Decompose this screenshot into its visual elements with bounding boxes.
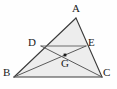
vertex-label-e: E [88,37,95,48]
vertex-label-a: A [72,3,80,14]
vertex-label-d: D [28,37,36,48]
vertex-label-g: G [61,58,69,69]
vertex-label-c: C [103,67,110,78]
geometry-figure: A B C D E G [0,0,117,89]
point-g-marker [64,54,67,57]
geometry-canvas [0,0,117,89]
vertex-label-b: B [3,67,10,78]
